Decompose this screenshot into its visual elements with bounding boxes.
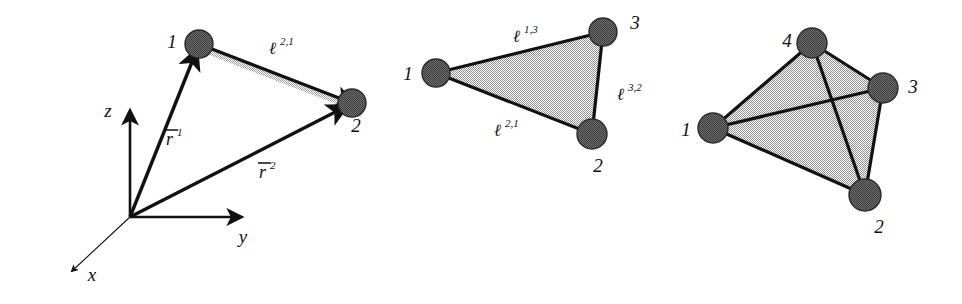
figure-root: 1 2 z y x r 1 r 2 ℓ 2,1 1 3 [0, 0, 962, 304]
tetra-node-3 [868, 73, 898, 103]
tetra-node-2-label: 2 [874, 216, 884, 237]
node-2 [338, 89, 366, 117]
triangle-node-1-label: 1 [403, 63, 413, 84]
triangle-node-2 [577, 119, 607, 149]
triangle-node-1 [422, 59, 450, 87]
edge-2-1-superscript: 2,1 [280, 35, 294, 47]
node-1 [185, 30, 213, 58]
vector-r2-base: r [259, 162, 267, 182]
tetra-node-3-label: 3 [907, 76, 918, 97]
tetra-node-1-label: 1 [681, 119, 691, 140]
triangle-edge-1-3-superscript: 1,3 [524, 23, 538, 35]
tetra-node-4-label: 4 [782, 30, 792, 51]
triangle-node-3 [589, 18, 617, 46]
triangle-node-3-label: 3 [629, 12, 640, 33]
axis-z-label: z [103, 100, 112, 121]
node-1-label: 1 [167, 31, 177, 52]
tetra-node-4 [797, 28, 827, 58]
axis-x-label: x [87, 264, 97, 285]
triangle-edge-2-1-base: ℓ [494, 121, 501, 140]
vector-r1-superscript: 1 [177, 126, 183, 138]
scientific-figure: 1 2 z y x r 1 r 2 ℓ 2,1 1 3 [0, 0, 962, 304]
edge-2-1-base: ℓ [269, 39, 276, 58]
triangle-node-2-label: 2 [593, 155, 603, 176]
triangle-edge-2-1-superscript: 2,1 [505, 117, 519, 129]
triangle-edge-3-2-superscript: 3,2 [627, 81, 642, 93]
triangle-edge-3-2-base: ℓ [617, 85, 624, 104]
node-2-label: 2 [351, 115, 361, 136]
axis-y-label: y [237, 226, 248, 247]
vector-r2-superscript: 2 [270, 159, 276, 171]
tetra-node-2 [849, 179, 881, 211]
triangle-edge-1-3-base: ℓ [513, 27, 520, 46]
vector-r1-base: r [166, 129, 174, 149]
tetra-node-1 [698, 113, 728, 143]
